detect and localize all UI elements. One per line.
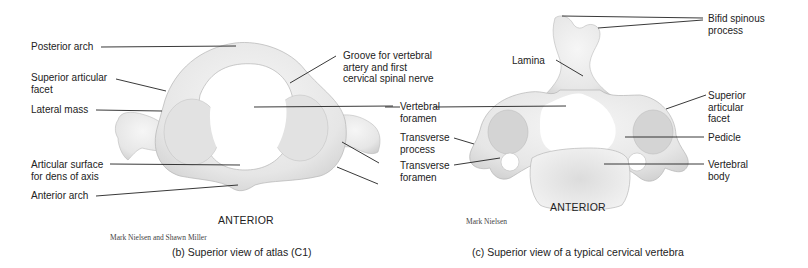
caption-atlas-c1: (b) Superior view of atlas (C1) <box>172 246 311 258</box>
label-superior-articular-facet-c1: Superior articularfacet <box>31 72 107 95</box>
label-transverse-foramen: Transverseforamen <box>400 160 450 183</box>
label-groove-vertebral-artery: Groove for vertebralartery and firstcerv… <box>343 50 434 85</box>
label-pedicle: Pedicle <box>708 132 741 144</box>
label-posterior-arch: Posterior arch <box>31 41 93 53</box>
label-anterior-arch: Anterior arch <box>31 190 88 202</box>
photo-credit-c1: Mark Nielsen and Shawn Miller <box>110 233 207 242</box>
label-lamina: Lamina <box>512 55 545 67</box>
orientation-label-cervical: ANTERIOR <box>550 201 606 213</box>
label-lateral-mass: Lateral mass <box>31 104 88 116</box>
label-superior-articular-facet-cervical: Superiorarticularfacet <box>708 90 746 125</box>
label-bifid-spinous-process: Bifid spinousprocess <box>708 13 765 36</box>
label-vertebral-body: Vertebralbody <box>708 159 748 182</box>
photo-credit-cervical: Mark Nielsen <box>466 217 507 226</box>
label-vertebral-foramen: Vertebralforamen <box>400 101 440 124</box>
label-transverse-process: Transverseprocess <box>400 132 450 155</box>
orientation-label-c1: ANTERIOR <box>218 214 274 226</box>
label-articular-surface-dens: Articular surfacefor dens of axis <box>31 159 103 182</box>
cervical-vertebra-illustration <box>470 16 689 210</box>
caption-cervical-vertebra: (c) Superior view of a typical cervical … <box>472 246 684 258</box>
